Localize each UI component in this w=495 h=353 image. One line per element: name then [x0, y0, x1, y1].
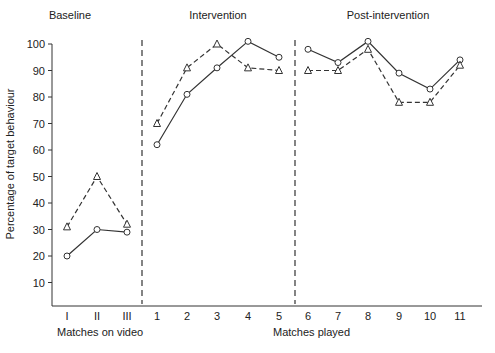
x-ticks: IIIIII1234567891011: [65, 310, 465, 322]
x-tick-label: 1: [154, 310, 160, 322]
x-group-label-video: Matches on video: [57, 326, 143, 338]
x-tick-label: II: [94, 310, 100, 322]
triangle-marker: [154, 120, 161, 127]
triangle-marker: [365, 45, 372, 52]
y-tick-label: 10: [33, 277, 45, 289]
phase-label-intervention: Intervention: [189, 9, 246, 21]
triangle-marker: [124, 220, 131, 227]
y-tick-label: 80: [33, 91, 45, 103]
x-tick-label: 11: [454, 310, 465, 322]
y-tick-label: 30: [33, 224, 45, 236]
y-tick-label: 100: [27, 38, 45, 50]
x-tick-label: 7: [335, 310, 341, 322]
y-axis-label: Percentage of target behaviour: [4, 88, 16, 239]
phase-label-post-intervention: Post-intervention: [347, 9, 430, 21]
triangle-marker: [94, 173, 101, 180]
circle-marker: [245, 38, 251, 44]
x-tick-label: 6: [305, 310, 311, 322]
phase-label-baseline: Baseline: [49, 9, 91, 21]
x-tick-label: I: [65, 310, 68, 322]
x-tick-label: III: [122, 310, 131, 322]
x-tick-label: 3: [214, 310, 220, 322]
x-tick-label: 4: [245, 310, 251, 322]
triangle-marker: [214, 40, 221, 47]
circle-marker: [305, 46, 311, 52]
series-line: [67, 177, 127, 227]
y-tick-label: 20: [33, 250, 45, 262]
circle-marker: [184, 91, 190, 97]
data-series: [64, 38, 464, 259]
circle-marker: [154, 142, 160, 148]
circle-marker: [427, 86, 433, 92]
series-line: [67, 230, 127, 257]
x-tick-label: 8: [365, 310, 371, 322]
circle-marker: [365, 38, 371, 44]
y-ticks: 102030405060708090100: [27, 38, 52, 289]
x-tick-label: 9: [396, 310, 402, 322]
x-group-label-played: Matches played: [273, 326, 350, 338]
series-line: [157, 41, 279, 144]
circle-marker: [64, 253, 70, 259]
y-tick-label: 60: [33, 144, 45, 156]
y-tick-label: 90: [33, 65, 45, 77]
circle-marker: [124, 229, 130, 235]
phase-dividers: [142, 40, 295, 304]
circle-marker: [396, 70, 402, 76]
circle-marker: [214, 65, 220, 71]
y-tick-label: 50: [33, 171, 45, 183]
x-tick-label: 10: [424, 310, 436, 322]
y-tick-label: 40: [33, 197, 45, 209]
triangle-marker: [245, 64, 252, 71]
x-tick-label: 5: [276, 310, 282, 322]
x-tick-label: 2: [184, 310, 190, 322]
circle-marker: [276, 54, 282, 60]
chart-canvas: 102030405060708090100 IIIIII123456789101…: [0, 0, 495, 353]
chart: 102030405060708090100 IIIIII123456789101…: [0, 0, 495, 353]
y-tick-label: 70: [33, 118, 45, 130]
circle-marker: [335, 60, 341, 66]
series-line: [308, 41, 460, 89]
series-triangle-dashed: [64, 40, 464, 230]
circle-marker: [94, 227, 100, 233]
series-line: [157, 44, 279, 124]
triangle-marker: [184, 64, 191, 71]
